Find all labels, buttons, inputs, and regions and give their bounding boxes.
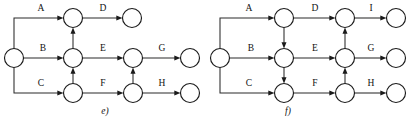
edge-f-g-arrowhead (380, 56, 386, 61)
e-end-node-g (181, 49, 200, 68)
nodes-layer (5, 9, 406, 103)
edge-label-f-i: I (369, 3, 372, 13)
edge-e-a-path (14, 18, 58, 49)
edge-f-c-arrowhead (268, 91, 274, 96)
edge-e-e-arrowhead (117, 56, 123, 61)
f-end-node-i (387, 9, 406, 28)
f-end-node-g (387, 49, 406, 68)
edge-label-f-c: C (246, 78, 252, 88)
network-diagrams-svg: ABCDEFGHABCDEFIGH e)f) (0, 0, 410, 123)
edge-e-h-arrowhead (174, 91, 180, 96)
edge-f-a-path (220, 18, 269, 49)
edge-f-dummy-f-c1r2-f-c1r3-arrowhead (282, 77, 287, 83)
e-col2-row2-node (124, 49, 143, 68)
figure-root: ABCDEFGHABCDEFIGH e)f) (0, 0, 410, 123)
edge-label-e-f: F (100, 78, 105, 88)
edge-e-c-path (14, 68, 58, 94)
edge-e-g-arrowhead (174, 56, 180, 61)
e-col1-row2-node (64, 49, 83, 68)
edge-label-f-e: E (312, 43, 318, 53)
edge-e-c-arrowhead (57, 91, 63, 96)
f-col1-row3-node (275, 84, 294, 103)
e-source-node (5, 49, 24, 68)
f-col1-row1-node (275, 9, 294, 28)
edge-f-h-arrowhead (380, 91, 386, 96)
edge-f-dummy-f-c1r1-f-c1r2-arrowhead (282, 42, 287, 48)
edge-f-c-path (220, 68, 269, 94)
f-col1-row2-node (275, 49, 294, 68)
edge-f-e-arrowhead (329, 56, 335, 61)
edge-f-d-arrowhead (329, 16, 335, 21)
edge-label-e-e: E (100, 43, 106, 53)
f-col2-row1-node (336, 9, 355, 28)
edge-label-f-f: F (312, 78, 317, 88)
edge-f-dummy-f-c2r3-f-c2r2-arrowhead (343, 68, 348, 74)
edge-label-f-a: A (246, 3, 253, 13)
edge-f-a-arrowhead (268, 16, 274, 21)
edge-label-e-c: C (38, 78, 44, 88)
edge-e-dummy-e-c2r3-e-c2r2-arrowhead (131, 68, 136, 74)
caption-e: e) (101, 106, 108, 117)
captions-layer: e)f) (101, 106, 291, 117)
edge-label-f-h: H (368, 78, 375, 88)
edge-f-b-arrowhead (268, 56, 274, 61)
edge-label-e-h: H (159, 78, 166, 88)
e-col2-row3-node (124, 84, 143, 103)
edge-label-f-b: B (248, 43, 254, 53)
edge-f-i-arrowhead (380, 16, 386, 21)
edge-label-e-a: A (38, 3, 45, 13)
edge-e-b-arrowhead (57, 56, 63, 61)
edge-e-f-arrowhead (117, 91, 123, 96)
e-end-node-h (181, 84, 200, 103)
edge-label-e-b: B (40, 43, 46, 53)
edge-label-f-d: D (312, 3, 319, 13)
f-col2-row2-node (336, 49, 355, 68)
edge-label-e-g: G (159, 43, 166, 53)
f-col2-row3-node (336, 84, 355, 103)
e-col1-row3-node (64, 84, 83, 103)
edge-label-e-d: D (100, 3, 107, 13)
e-end-node-d (123, 9, 142, 28)
edge-e-dummy-e-c1r2-e-c1r1-arrowhead (71, 28, 76, 34)
e-col1-row1-node (64, 9, 83, 28)
edge-f-dummy-f-c2r2-f-c2r1-arrowhead (343, 28, 348, 34)
edge-label-f-g: G (368, 43, 375, 53)
edge-e-a-arrowhead (57, 16, 63, 21)
f-source-node (211, 49, 230, 68)
edge-e-dummy-e-c1r3-e-c1r2-arrowhead (71, 68, 76, 74)
caption-f: f) (285, 106, 291, 117)
edge-f-f-arrowhead (329, 91, 335, 96)
f-end-node-h (387, 84, 406, 103)
edge-labels-layer: ABCDEFGHABCDEFIGH (38, 3, 375, 88)
edge-e-d-arrowhead (116, 16, 122, 21)
